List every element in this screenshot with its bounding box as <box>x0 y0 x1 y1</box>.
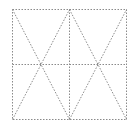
guide-lines <box>13 10 127 120</box>
dotted-grid-diagram <box>0 0 133 130</box>
